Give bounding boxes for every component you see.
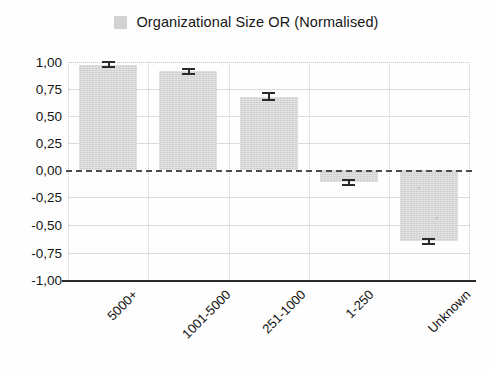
x-tick-251-1000: 251-1000 <box>259 287 308 336</box>
gridline-y-neg-0-75 <box>68 253 470 254</box>
chart-figure: Organizational Size OR (Normalised) 1,00… <box>0 0 493 373</box>
bar-1001-5000[interactable] <box>159 71 217 170</box>
x-tick-5000-plus: 5000+ <box>104 287 140 323</box>
plot-area <box>68 62 470 281</box>
y-tick-0-50: 0,50 <box>4 109 62 124</box>
scan-speck <box>436 217 438 219</box>
x-tick-unknown: Unknown <box>425 287 474 336</box>
bar-5000-plus[interactable] <box>79 65 137 170</box>
zero-reference-line <box>66 170 472 172</box>
y-tick-neg-0-25: -0,25 <box>4 190 62 205</box>
y-tick-neg-0-50: -0,50 <box>4 218 62 233</box>
bar-251-1000[interactable] <box>240 97 298 170</box>
y-tick-0-75: 0,75 <box>4 82 62 97</box>
chart-legend: Organizational Size OR (Normalised) <box>0 14 493 30</box>
y-tick-neg-1-00: -1,00 <box>4 273 62 288</box>
y-axis-tick-labels: 1,00 0,75 0,50 0,25 0,00 -0,25 -0,50 -0,… <box>0 62 62 281</box>
y-tick-neg-0-75: -0,75 <box>4 246 62 261</box>
x-tick-1001-5000: 1001-5000 <box>179 287 234 342</box>
legend-swatch-organizational-size <box>114 16 127 29</box>
gridline-y-1-00 <box>68 62 470 63</box>
x-tick-1-250: 1-250 <box>342 287 376 321</box>
legend-label-organizational-size: Organizational Size OR (Normalised) <box>136 14 378 30</box>
y-tick-0-25: 0,25 <box>4 136 62 151</box>
y-tick-0-00: 0,00 <box>4 163 62 178</box>
x-axis-tick-labels: 5000+ 1001-5000 251-1000 1-250 Unknown <box>68 281 470 373</box>
scan-speck <box>418 187 420 189</box>
bar-unknown[interactable] <box>400 170 458 241</box>
y-tick-1-00: 1,00 <box>4 55 62 70</box>
